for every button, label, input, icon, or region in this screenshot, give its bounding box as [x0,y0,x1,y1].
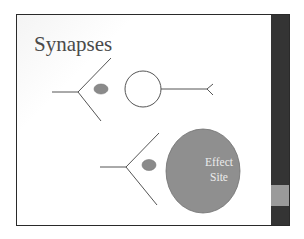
top-neurotransmitter [94,84,108,94]
receiving-axon [161,84,213,95]
receiving-cell-body [125,71,161,107]
bottom-neurotransmitter [142,160,156,171]
synapse-diagram [17,15,290,226]
slide-sidebar-accent-band [271,185,289,206]
effect-site-label-line1: Effect [183,155,255,170]
effect-site-label: Effect Site [183,155,255,185]
slide: Synapses Effect Site [16,14,290,226]
effect-site-label-line2: Site [183,170,255,185]
